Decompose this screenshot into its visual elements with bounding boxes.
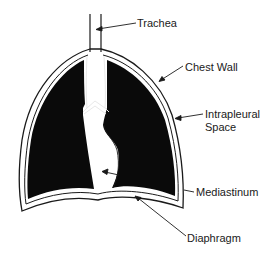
left-lung [27,60,94,199]
intrapleural-label-line2: Space [205,121,236,134]
mediastinum-leader [184,190,194,192]
trachea-label: Trachea [137,17,177,30]
chest-wall-leader [161,66,183,80]
intrapleural-label-line1: Intrapleural [205,108,260,121]
chest-wall-arrowhead [159,77,165,82]
trachea-leader [98,23,136,29]
trachea-arrowhead [96,27,102,32]
chest-wall-label: Chest Wall [185,61,238,74]
thorax-diagram [0,0,279,259]
intrapleural-leader [178,114,203,118]
diaphragm-label: Diaphragm [187,232,241,245]
mediastinum-label: Mediastinum [196,186,258,199]
intrapleural-arrowhead [175,116,181,121]
